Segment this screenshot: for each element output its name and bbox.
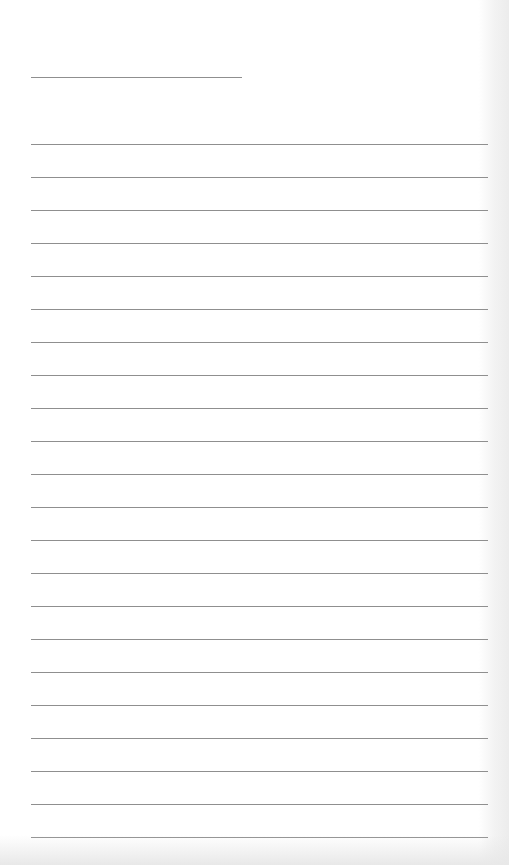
ruled-line [31, 474, 488, 475]
ruled-line [31, 639, 488, 640]
ruled-line [31, 573, 488, 574]
ruled-line [31, 342, 488, 343]
ruled-line [31, 540, 488, 541]
ruled-line [31, 309, 488, 310]
ruled-line [31, 672, 488, 673]
paper-edge-shadow [0, 835, 509, 865]
ruled-line [31, 441, 488, 442]
ruled-line [31, 705, 488, 706]
ruled-line [31, 375, 488, 376]
header-line [31, 77, 242, 78]
ruled-line [31, 243, 488, 244]
ruled-line [31, 738, 488, 739]
ruled-line [31, 408, 488, 409]
ruled-line [31, 771, 488, 772]
ruled-line [31, 177, 488, 178]
ruled-line [31, 606, 488, 607]
ruled-line [31, 507, 488, 508]
ruled-line [31, 276, 488, 277]
ruled-line [31, 144, 488, 145]
ruled-line [31, 210, 488, 211]
ruled-line [31, 804, 488, 805]
